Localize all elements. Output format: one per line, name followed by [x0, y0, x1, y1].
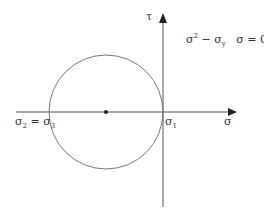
- sigma3-sub: 3: [51, 122, 55, 130]
- sigma-axis-label: σ: [224, 116, 232, 127]
- tau-axis-label: τ: [146, 11, 152, 22]
- equation-condition: σ = 0: [236, 33, 264, 46]
- equation-minus-sigma: − σ: [198, 33, 222, 46]
- sigma1-base: σ: [165, 115, 173, 128]
- equals-sigma3: = σ: [27, 115, 51, 128]
- equation-spacer: [226, 33, 237, 46]
- sigma1-sub: 1: [173, 122, 177, 130]
- sigma2-sigma3-label: σ2 = σ3: [15, 116, 55, 127]
- mohr-circle-diagram: [0, 0, 264, 220]
- equation-sigma: σ: [186, 33, 194, 46]
- sigma2-base: σ: [15, 115, 23, 128]
- sigma1-label: σ1: [165, 116, 177, 127]
- tau-axis-arrow-icon: [159, 13, 167, 23]
- circle-center-point: [104, 110, 108, 114]
- equation-label: σ2 − σy σ = 0: [186, 34, 264, 45]
